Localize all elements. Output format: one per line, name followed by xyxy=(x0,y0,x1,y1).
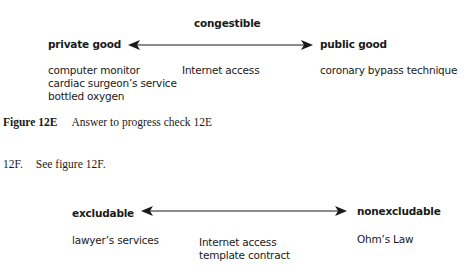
list-item: Ohm’s Law xyxy=(357,233,413,246)
left-label-private-good: private good xyxy=(48,38,121,50)
list-item: cardiac surgeon’s service xyxy=(48,77,177,90)
list-item: coronary bypass technique xyxy=(320,64,457,77)
middle-items-list: Internet access xyxy=(182,64,259,77)
list-item: template contract xyxy=(199,249,290,262)
caption-text: Answer to progress check 12E xyxy=(71,116,212,128)
list-item: Internet access xyxy=(182,64,259,77)
list-item: Internet access xyxy=(199,236,290,249)
right-items-list: Ohm’s Law xyxy=(357,233,413,246)
top-label-congestible: congestible xyxy=(194,17,260,29)
double-arrow-icon xyxy=(128,39,313,51)
answer-paragraph: 12F.See figure 12F. xyxy=(3,158,106,170)
middle-items-list: Internet access template contract xyxy=(199,236,290,262)
caption-label: Figure 12E xyxy=(3,116,57,128)
figure-caption: Figure 12EAnswer to progress check 12E xyxy=(3,116,212,128)
answer-text: See figure 12F. xyxy=(36,158,106,170)
right-label-nonexcludable: nonexcludable xyxy=(357,205,441,217)
right-items-list: coronary bypass technique xyxy=(320,64,457,77)
left-label-excludable: excludable xyxy=(72,207,134,219)
left-items-list: lawyer’s services xyxy=(72,234,159,247)
right-label-public-good: public good xyxy=(320,38,387,50)
double-arrow-icon xyxy=(141,205,347,217)
left-items-list: computer monitor cardiac surgeon’s servi… xyxy=(48,64,177,103)
list-item: lawyer’s services xyxy=(72,234,159,247)
list-item: computer monitor xyxy=(48,64,177,77)
answer-number: 12F. xyxy=(3,158,23,170)
list-item: bottled oxygen xyxy=(48,90,177,103)
